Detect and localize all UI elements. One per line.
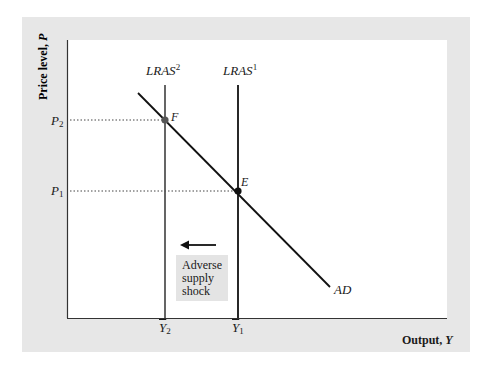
lras1-label-sup: 1 <box>253 62 258 72</box>
tick-y2: Y2 <box>159 320 171 336</box>
ad-lras-diagram: Price level, P Output, Y LRAS2 LRAS1 AD … <box>0 0 490 370</box>
note-line-3: shock <box>182 285 228 298</box>
point-f-label: F <box>171 110 178 125</box>
tick-p1: P1 <box>51 183 63 199</box>
arrow-left-icon <box>180 241 189 250</box>
lras1-label-name: LRAS <box>223 63 253 78</box>
y-axis-title: Price level, P <box>36 34 51 100</box>
tick-y1: Y1 <box>232 320 244 336</box>
tick-p1-sub: 1 <box>59 189 64 199</box>
tick-p1-var: P <box>51 183 59 198</box>
tick-y1-sub: 1 <box>239 326 244 336</box>
adverse-supply-shock-note: Adverse supply shock <box>176 255 228 301</box>
x-axis-title: Output, Y <box>402 333 453 348</box>
lras2-label-name: LRAS <box>146 63 176 78</box>
tick-p2: P2 <box>51 113 63 129</box>
lras2-label-sup: 2 <box>176 62 181 72</box>
y-axis-title-text: Price level, <box>36 41 50 100</box>
lras2-label: LRAS2 <box>146 62 180 79</box>
lras1-label: LRAS1 <box>223 62 257 79</box>
ad-label: AD <box>334 282 351 298</box>
x-axis-title-var: Y <box>445 333 452 347</box>
x-axis-title-text: Output, <box>402 333 445 347</box>
point-e-label: E <box>241 175 248 190</box>
point-f <box>161 116 168 123</box>
tick-p2-sub: 2 <box>59 119 64 129</box>
tick-y2-sub: 2 <box>166 326 171 336</box>
tick-p2-var: P <box>51 113 59 128</box>
y-axis-title-var: P <box>36 34 50 41</box>
